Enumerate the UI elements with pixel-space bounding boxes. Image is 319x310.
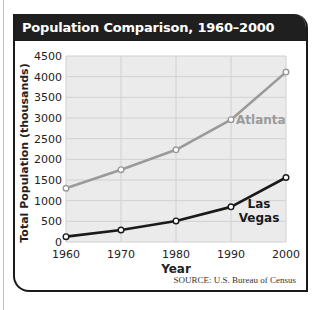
y-tick-label: 4000 <box>34 71 62 84</box>
las-vegas-marker <box>63 234 69 240</box>
x-tick-label: 1970 <box>107 248 135 261</box>
x-axis-label: Year <box>160 262 191 276</box>
las-vegas-marker <box>173 218 179 224</box>
las-vegas-marker <box>118 227 124 233</box>
y-axis-label: Total Population (thousands) <box>18 63 31 242</box>
y-tick-label: 500 <box>41 215 62 228</box>
atlanta-label: Atlanta <box>236 113 286 127</box>
atlanta-marker <box>173 147 179 153</box>
atlanta-marker <box>228 117 234 123</box>
y-tick-label: 1000 <box>34 195 62 208</box>
y-tick-label: 3000 <box>34 112 62 125</box>
las-vegas-marker <box>283 175 289 181</box>
y-tick-label: 2000 <box>34 153 62 166</box>
y-tick-label: 1500 <box>34 174 62 187</box>
x-tick-label: 1960 <box>52 248 80 261</box>
page-margin-rule <box>3 0 4 310</box>
y-tick-label: 3500 <box>34 91 62 104</box>
atlanta-marker <box>118 167 124 173</box>
x-tick-label: 2000 <box>272 248 300 261</box>
chart-card: Population Comparison, 1960–2000 0500100… <box>13 14 308 292</box>
atlanta-marker <box>63 185 69 191</box>
las-vegas-marker <box>228 204 234 210</box>
line-chart: 0500100015002000250030003500400045001960… <box>15 14 306 290</box>
x-tick-label: 1980 <box>162 248 190 261</box>
las-vegas-label-line2: Vegas <box>239 211 280 225</box>
y-tick-label: 4500 <box>34 50 62 63</box>
y-tick-label: 2500 <box>34 133 62 146</box>
source-note: SOURCE: U.S. Bureau of Census <box>173 275 296 285</box>
atlanta-marker <box>283 69 289 75</box>
las-vegas-label-line1: Las <box>248 197 271 211</box>
x-tick-label: 1990 <box>217 248 245 261</box>
